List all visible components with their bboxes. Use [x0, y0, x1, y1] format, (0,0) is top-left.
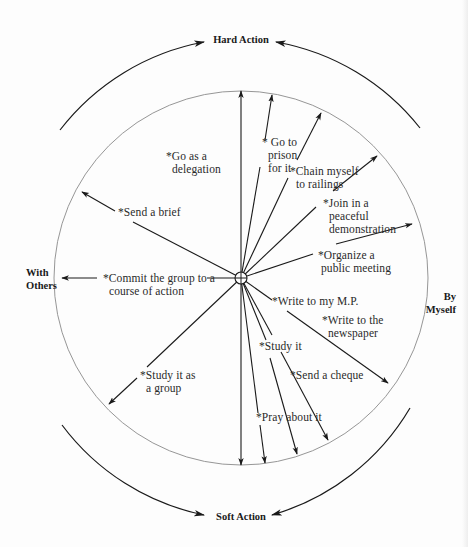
action-diagram	[0, 0, 468, 547]
action-write-newspaper: *Write to the newspaper	[322, 314, 384, 340]
soft-action-label: Soft Action	[205, 510, 277, 523]
action-send-cheque: *Send a cheque	[290, 369, 364, 382]
by-myself-label: By Myself	[420, 290, 456, 316]
arc-bottom-left	[62, 425, 204, 515]
action-pray: *Pray about it	[256, 411, 322, 424]
action-join-demonstration: *Join in a peaceful demonstration	[323, 197, 396, 236]
arc-top-left	[60, 42, 204, 130]
action-study-group: *Study it as a group	[140, 369, 196, 395]
arc-bottom-right	[272, 408, 410, 515]
action-send-brief: *Send a brief	[118, 206, 181, 219]
action-organize-meeting: *Organize a public meeting	[318, 249, 391, 275]
hard-action-label: Hard Action	[205, 33, 277, 46]
center-node	[235, 272, 247, 284]
action-study-it: *Study it	[259, 340, 302, 353]
action-go-as-delegation: *Go as a delegation	[166, 150, 221, 176]
arc-top-right	[276, 42, 420, 128]
with-others-label: With Others	[26, 266, 57, 292]
action-write-mp: *Write to my M.P.	[272, 295, 359, 308]
action-commit-group: *Commit the group to a course of action	[103, 272, 215, 298]
action-chain-myself: *Chain myself to railings	[290, 165, 359, 191]
